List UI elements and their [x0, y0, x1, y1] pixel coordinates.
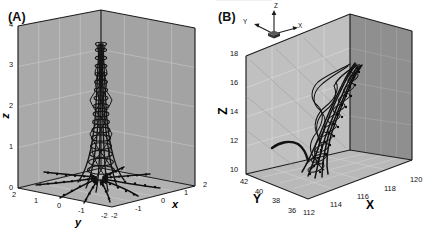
panel-a-ytick-0: 0 [57, 201, 61, 210]
panel-a-ytick-1: 1 [34, 196, 38, 205]
panel-b: (B) Z X Y [216, 0, 433, 234]
panel-a-ztick-2: 2 [9, 101, 13, 110]
panel-b-xtick-120: 120 [410, 175, 422, 184]
panel-a-ytick-m1: -1 [78, 206, 85, 215]
panel-a-ytick-2: 2 [12, 190, 16, 199]
wall-left [216, 0, 350, 174]
panel-a-y-axis-label: y [75, 216, 81, 228]
panel-b-ztick-10: 10 [230, 165, 238, 174]
panel-b-ztick-12: 12 [230, 136, 238, 145]
panel-b-ztick-14: 14 [230, 107, 238, 116]
panel-a-ztick-1: 1 [9, 142, 13, 151]
panel-b-ytick-36: 36 [288, 206, 296, 215]
panel-a-xtick-m2: -2 [111, 211, 118, 220]
panel-a-plot [0, 0, 216, 234]
panel-b-xtick-114: 114 [330, 200, 342, 209]
panel-b-xtick-118: 118 [384, 184, 396, 193]
panel-b-plot [216, 0, 433, 234]
panel-b-ztick-18: 18 [230, 49, 238, 58]
figure-canvas: (A) [0, 0, 433, 234]
panel-b-x-axis-label: X [366, 198, 374, 212]
panel-b-xtick-112: 112 [303, 208, 315, 217]
panel-b-z-axis-label: Z [216, 107, 230, 114]
wall-right [350, 14, 412, 160]
panel-b-ytick-42: 42 [240, 177, 248, 186]
panel-b-ztick-16: 16 [230, 78, 238, 87]
panel-a-xtick-0: 0 [161, 196, 165, 205]
wall-right [101, 10, 195, 186]
panel-b-y-axis-label: Y [253, 192, 261, 206]
panel-a-xtick-m1: -1 [135, 204, 142, 213]
panel-a-ztick-3: 3 [9, 60, 13, 69]
panel-a-xtick-2: 2 [203, 180, 207, 189]
panel-a-ztick-4: 4 [9, 20, 13, 29]
panel-a: (A) [0, 0, 216, 234]
panel-b-ytick-38: 38 [272, 196, 280, 205]
panel-a-ytick-m2: -2 [101, 211, 108, 220]
panel-a-x-axis-label: x [172, 198, 178, 210]
panel-a-z-axis-label: z [0, 113, 11, 119]
panel-a-xtick-1: 1 [184, 188, 188, 197]
